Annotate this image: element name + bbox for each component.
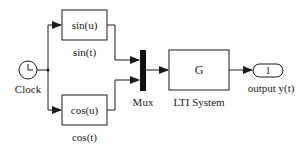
output-port-label: output y(t)	[248, 82, 295, 94]
clock-label: Clock	[15, 83, 41, 95]
signal-line-clock	[37, 25, 61, 110]
lti-block-label: LTI System	[173, 96, 224, 108]
sin-block-label: sin(t)	[73, 46, 96, 58]
lti-block-content: G	[195, 64, 204, 76]
signal-line-sin	[107, 25, 139, 60]
output-port-number: 1	[266, 65, 271, 77]
cos-block-label: cos(t)	[72, 131, 97, 143]
mux-block[interactable]	[140, 50, 146, 91]
clock-block[interactable]	[19, 61, 37, 79]
mux-label: Mux	[133, 96, 154, 108]
sin-block-content: sin(u)	[72, 19, 98, 31]
cos-block-content: cos(u)	[71, 104, 99, 116]
diagram-canvas	[0, 0, 305, 152]
